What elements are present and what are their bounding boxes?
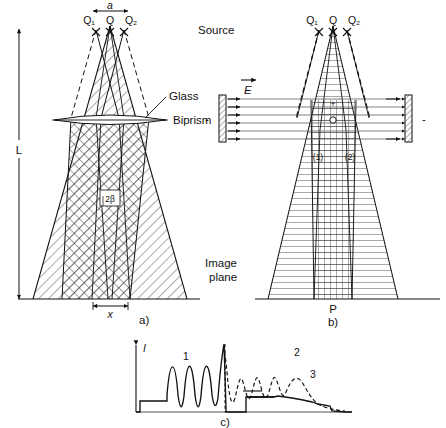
curve-2-path [224,345,345,411]
svg-text:+: + [331,99,336,109]
label-beam-1: (1) [313,152,324,162]
label-curve-2: 2 [294,346,300,358]
label-glass: Glass [169,90,199,102]
label-plate-sign-left: - [205,113,209,125]
label-image-plane-line2: plane [209,271,237,283]
label-angle-2beta: 2β [105,194,115,204]
caption-c: c) [220,416,230,428]
label-beam-2: (2) [345,152,356,162]
label-q2-a: Q₂ [125,14,137,26]
caption-b: b) [328,316,338,328]
label-source: Source [198,24,234,36]
panel-a: Q₁ Q Q₂ a L 2β x G [11,0,237,326]
label-q2-b: Q₂ [348,14,360,26]
label-curve-3: 3 [310,368,316,380]
label-intensity-axis: I [143,342,146,354]
label-point-p: P [329,303,337,315]
curve-1-path [136,344,274,412]
label-e-field: E [244,84,252,96]
label-q1-a: Q₁ [83,14,95,26]
label-q1-b: Q₁ [306,14,318,26]
label-q-a: Q [106,14,114,26]
distance-L-arrow [11,29,28,299]
figure-root: Q₁ Q Q₂ a L 2β x G [0,0,446,428]
biprism-element-a [52,115,168,125]
label-image-plane-line1: Image [205,257,237,269]
label-q-b: Q [329,14,337,26]
panel-c-chart: I 1 2 3 c) [136,342,352,428]
label-separation-a: a [107,0,113,11]
label-fringe-x: x [106,308,113,320]
caption-a: a) [139,314,149,326]
panel-b: Q₁ Q Q₂ [205,14,440,328]
capacitor-plate-right [405,95,412,142]
glass-leader-line [145,97,166,118]
label-curve-1: 1 [183,350,189,362]
capacitor-plate-left [219,95,226,142]
figure-svg: Q₁ Q Q₂ a L 2β x G [0,0,446,428]
label-distance-L: L [16,144,23,156]
label-plate-sign-right: - [422,113,426,125]
